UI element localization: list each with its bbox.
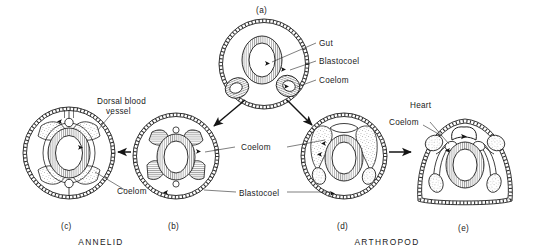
heart-region-d [330, 124, 358, 133]
ventral-vessel-b [173, 181, 179, 187]
taxon-arthropod: ARTHROPOD [354, 237, 419, 247]
label-coelom-a: Coelom [319, 76, 349, 85]
panel-c [23, 107, 115, 199]
label-coelom-e: Coelom [389, 118, 419, 127]
panel-e [418, 119, 513, 205]
label-dorsal-blood-vessel-line2: vessel [106, 107, 131, 116]
dorsal-vessel-b [173, 127, 179, 133]
leader-coelom-a [297, 80, 316, 87]
figure-canvas: Gut Blastocoel Coelom Dorsal blood vesse… [0, 0, 536, 251]
heart-e [452, 127, 477, 140]
caption-d: (d) [337, 222, 348, 231]
coelom-sac-left-a [222, 74, 252, 102]
caption-c: (c) [61, 222, 72, 231]
caption-a: (a) [256, 6, 267, 15]
label-blastocoel-center: Blastocoel [239, 189, 279, 198]
coelom-development-figure: Gut Blastocoel Coelom Dorsal blood vesse… [0, 0, 536, 251]
blastocoel-pointer-a [281, 67, 286, 72]
arrow-a-to-d [287, 100, 312, 125]
dorsal-blood-vessel-c [65, 118, 73, 126]
panel-a [219, 19, 309, 109]
leader-blastocoel-center-left [204, 190, 236, 192]
label-gut: Gut [319, 39, 333, 48]
label-coelom-c: Coelom [117, 187, 147, 196]
caption-b: (b) [168, 222, 179, 231]
label-blastocoel-a: Blastocoel [319, 57, 359, 66]
gut-b [157, 134, 195, 180]
ventral-blood-vessel-c [65, 179, 73, 187]
label-coelom-center: Coelom [241, 143, 271, 152]
label-heart: Heart [410, 101, 432, 110]
caption-e: (e) [458, 224, 469, 233]
arrow-a-to-b [214, 100, 245, 126]
coelom-pointer-b [196, 149, 201, 154]
leader-coelom-center-left [205, 147, 235, 152]
leader-heart-e [423, 125, 442, 136]
taxon-annelid: ANNELID [78, 237, 123, 247]
panel-d [301, 113, 387, 199]
leader-blastocoel-a [290, 61, 316, 70]
label-dorsal-blood-vessel-line1: Dorsal blood [97, 97, 146, 106]
